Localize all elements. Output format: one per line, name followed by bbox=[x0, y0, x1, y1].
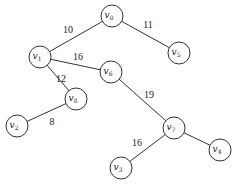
node-label-subscript: 2 bbox=[15, 124, 19, 131]
edge-weight-label: 16 bbox=[73, 51, 83, 62]
node-v7: v7 bbox=[163, 117, 185, 139]
node-v5: v5 bbox=[168, 42, 190, 64]
node-v6: v6 bbox=[100, 61, 122, 83]
node-v8: v8 bbox=[65, 88, 87, 110]
edge-weights-group: 1011161281916 bbox=[50, 19, 155, 148]
edge-weight-label: 11 bbox=[143, 19, 153, 30]
edges-group bbox=[17, 16, 220, 168]
edge-weight-label: 12 bbox=[56, 73, 66, 84]
node-label-subscript: 1 bbox=[38, 55, 42, 62]
node-label-subscript: 8 bbox=[74, 97, 78, 104]
edge-weight-label: 19 bbox=[144, 89, 154, 100]
node-label-subscript: 3 bbox=[119, 166, 123, 173]
node-label-subscript: 7 bbox=[172, 126, 176, 133]
node-v2: v2 bbox=[6, 115, 28, 137]
node-v4: v4 bbox=[209, 139, 231, 161]
edge-weight-label: 16 bbox=[132, 137, 142, 148]
edge-v6-v7 bbox=[111, 72, 174, 128]
node-v1: v1 bbox=[29, 46, 51, 68]
node-v0: v0 bbox=[101, 5, 123, 27]
node-label-subscript: 6 bbox=[109, 70, 113, 77]
node-label-subscript: 5 bbox=[177, 51, 181, 58]
node-label-subscript: 4 bbox=[218, 148, 222, 155]
edge-weight-label: 10 bbox=[63, 24, 73, 35]
node-v3: v3 bbox=[110, 157, 132, 179]
node-label-subscript: 0 bbox=[110, 14, 114, 21]
tree-diagram: 1011161281916 v0v1v5v6v8v2v7v4v3 bbox=[0, 0, 242, 189]
nodes-group: v0v1v5v6v8v2v7v4v3 bbox=[6, 5, 231, 179]
edge-weight-label: 8 bbox=[50, 116, 55, 127]
